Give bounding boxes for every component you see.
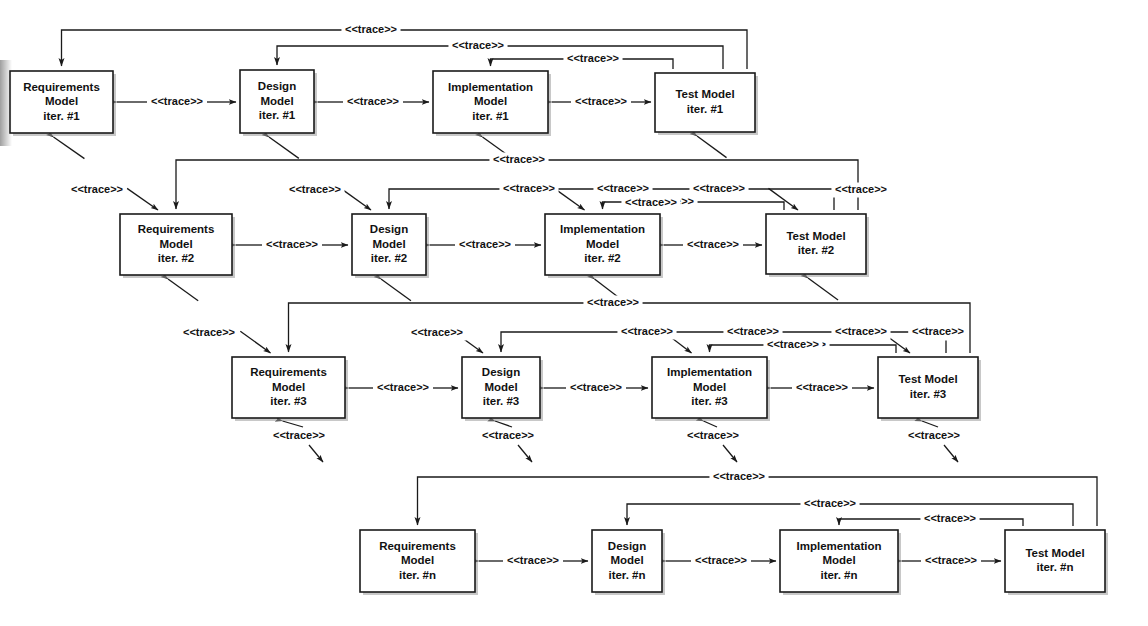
- model-box-line: Design: [258, 80, 296, 92]
- trace-label-horizontal: <<trace>>: [925, 554, 977, 566]
- trace-label-dangling: <<trace>>: [687, 429, 739, 441]
- model-box-line: Model: [159, 238, 192, 250]
- trace-label-arc: <<trace>>: [567, 52, 619, 64]
- model-box-line: iter. #2: [158, 252, 194, 264]
- model-box-line: Implementation: [560, 223, 645, 235]
- model-box-test-2[interactable]: Test Modeliter. #2: [766, 214, 869, 277]
- model-box-line: iter. #2: [584, 252, 620, 264]
- trace-label-horizontal: <<trace>>: [151, 95, 203, 107]
- trace-arrow-dangle-up: [283, 421, 304, 427]
- model-box-line: Test Model: [675, 88, 734, 100]
- trace-arrow-diag-down: [127, 188, 158, 210]
- model-box-test-n[interactable]: Test Modeliter. #n: [1005, 530, 1108, 595]
- trace-label-arc: <<trace>>: [713, 470, 765, 482]
- model-box-line: iter. #1: [472, 110, 509, 122]
- trace-label-extra: <<trace>>: [912, 325, 964, 337]
- model-box-line: Design: [608, 540, 646, 552]
- trace-arrow-diag-down: [341, 189, 371, 210]
- model-box-line: Test Model: [786, 230, 845, 242]
- trace-label-extra: <<trace>>: [727, 325, 779, 337]
- trace-arrow-dangle-up: [495, 421, 512, 427]
- model-box-line: Design: [482, 366, 520, 378]
- model-box-impl-2[interactable]: ImplementationModeliter. #2: [545, 214, 663, 278]
- model-box-line: iter. #3: [270, 395, 306, 407]
- traceability-diagram: RequirementsModeliter. #1DesignModeliter…: [0, 0, 1148, 626]
- trace-label-horizontal: <<trace>>: [687, 238, 739, 250]
- model-box-line: Model: [586, 238, 619, 250]
- trace-arrow-diag-up: [269, 137, 299, 158]
- trace-arrow-diag-down: [555, 189, 585, 210]
- model-box-req-2[interactable]: RequirementsModeliter. #2: [120, 214, 235, 278]
- model-box-des-1[interactable]: DesignModeliter. #1: [240, 70, 317, 136]
- model-box-req-1[interactable]: RequirementsModeliter. #1: [10, 71, 116, 136]
- model-box-line: Implementation: [667, 366, 752, 378]
- trace-label-extra: <<trace>>: [693, 182, 745, 194]
- diagram-canvas: RequirementsModeliter. #1DesignModeliter…: [0, 0, 1148, 626]
- trace-label-arc: <<trace>>: [503, 182, 555, 194]
- model-box-des-2[interactable]: DesignModeliter. #2: [352, 214, 429, 278]
- trace-label-horizontal: <<trace>>: [347, 95, 399, 107]
- trace-arrow-diag-down: [240, 331, 270, 353]
- model-box-test-1[interactable]: Test Modeliter. #1: [655, 73, 758, 135]
- model-box-req-n[interactable]: RequirementsModeliter. #n: [360, 530, 478, 595]
- model-box-line: iter. #n: [399, 569, 436, 581]
- trace-label-arc: <<trace>>: [345, 23, 397, 35]
- trace-arrow-diag-up: [381, 279, 411, 301]
- page-edge-shadow: [0, 60, 12, 146]
- model-box-impl-3[interactable]: ImplementationModeliter. #3: [652, 357, 770, 421]
- model-box-line: iter. #3: [483, 395, 519, 407]
- model-box-line: Model: [372, 238, 405, 250]
- model-box-des-3[interactable]: DesignModeliter. #3: [462, 357, 543, 421]
- trace-arc-test-1-to-req-1: [62, 30, 748, 69]
- trace-label-arc: <<trace>>: [924, 512, 976, 524]
- trace-arrow-diag-up: [808, 278, 838, 300]
- model-box-line: Model: [693, 381, 726, 393]
- model-box-test-3[interactable]: Test Modeliter. #3: [878, 357, 981, 421]
- model-box-impl-1[interactable]: ImplementationModeliter. #1: [433, 71, 551, 136]
- model-box-impl-n[interactable]: ImplementationModeliter. #n: [780, 530, 901, 595]
- model-box-line: iter. #3: [691, 395, 727, 407]
- trace-label-arc: <<trace>>: [804, 497, 856, 509]
- model-box-line: iter. #2: [798, 244, 834, 256]
- trace-label-diagonal: <<trace>>: [183, 326, 235, 338]
- model-box-line: iter. #2: [371, 252, 407, 264]
- trace-arrow-diag-up: [168, 279, 198, 301]
- trace-arrow-dangle-down: [944, 445, 958, 462]
- trace-label-dangling: <<trace>>: [273, 429, 325, 441]
- trace-label-diagonal: <<trace>>: [71, 183, 123, 195]
- model-box-line: Model: [610, 554, 643, 566]
- edges-layer: [54, 30, 1098, 561]
- trace-label-diagonal: <<trace>>: [767, 338, 819, 350]
- model-box-line: Model: [474, 95, 507, 107]
- model-box-line: Model: [272, 381, 305, 393]
- model-box-line: iter. #3: [910, 388, 946, 400]
- trace-label-dangling: <<trace>>: [908, 429, 960, 441]
- model-box-req-3[interactable]: RequirementsModeliter. #3: [232, 357, 348, 421]
- trace-label-diagonal: <<trace>>: [625, 196, 677, 208]
- trace-label-arc: <<trace>>: [587, 296, 639, 308]
- trace-label-dangling: <<trace>>: [482, 429, 534, 441]
- trace-label-horizontal: <<trace>>: [266, 238, 318, 250]
- model-box-line: Implementation: [797, 540, 882, 552]
- trace-arrow-dangle-down: [723, 445, 737, 462]
- model-box-line: Requirements: [250, 366, 327, 378]
- model-box-line: iter. #1: [687, 103, 724, 115]
- trace-label-extra: <<trace>>: [597, 182, 649, 194]
- model-box-des-n[interactable]: DesignModeliter. #n: [592, 530, 665, 595]
- model-box-line: iter. #n: [1036, 561, 1073, 573]
- trace-label-horizontal: <<trace>>: [575, 95, 627, 107]
- trace-label-diagonal: <<trace>>: [289, 183, 341, 195]
- model-box-line: Model: [260, 95, 293, 107]
- trace-arrow-dangle-down: [309, 445, 323, 462]
- model-box-line: Test Model: [898, 373, 957, 385]
- trace-label-horizontal: <<trace>>: [796, 381, 848, 393]
- trace-label-arc: <<trace>>: [452, 39, 504, 51]
- trace-arrow-dangle-up: [704, 421, 718, 427]
- model-box-line: Model: [822, 554, 855, 566]
- trace-arrow-diag-up: [697, 136, 727, 158]
- trace-label-horizontal: <<trace>>: [570, 381, 622, 393]
- model-box-line: iter. #1: [259, 109, 296, 121]
- model-box-line: iter. #1: [43, 110, 80, 122]
- trace-arrow-diag-down: [768, 188, 798, 210]
- trace-label-horizontal: <<trace>>: [507, 554, 559, 566]
